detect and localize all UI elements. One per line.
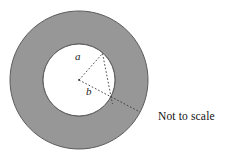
annulus-diagram — [0, 0, 230, 153]
not-to-scale-caption: Not to scale — [158, 110, 215, 122]
center-vertex-dot — [78, 79, 80, 81]
radius-b-label: b — [86, 86, 92, 97]
radius-a-label: a — [75, 51, 81, 62]
figure-container: a b Not to scale — [0, 0, 230, 153]
